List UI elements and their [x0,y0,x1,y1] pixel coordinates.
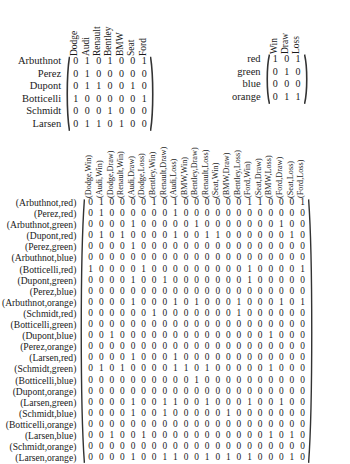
pair-product-cell: 0 [287,376,298,387]
pair-product-cell: 0 [181,453,192,464]
pair-product-cell: 0 [149,376,160,387]
pair-product-cell: 0 [191,364,202,375]
driver-car-row: 0101001 [70,56,150,69]
pair-product-cell: 0 [223,376,234,387]
pair-product-row-label: (Schmidt,green) [14,364,79,375]
pair-product-cell: 1 [85,265,96,276]
driver-car-cell: 1 [82,81,93,94]
pair-product-cell: 1 [265,364,276,375]
pair-product-cell: 0 [297,364,308,375]
color-result-row: 011 [270,92,304,105]
pair-product-cell: 0 [244,364,255,375]
color-result-col-label: Loss [292,24,303,54]
pair-product-cell: 0 [96,265,107,276]
driver-car-cell: 0 [104,81,115,94]
pair-product-row: 000000000010000000000 [85,376,307,387]
pair-product-cell: 1 [96,364,107,375]
pair-product-cell: 0 [128,376,139,387]
pair-product-cell: 0 [170,376,181,387]
pair-product-cell: 0 [181,376,192,387]
pair-product-cell: 1 [170,453,181,464]
left-paren [265,54,270,104]
driver-car-col-headers: DodgeAudiRenaultBentleyBMWSeatFord [65,12,155,56]
driver-car-grid: 0101001010000001100101000001000100001101… [70,56,150,132]
pair-product-cell: 0 [297,453,308,464]
driver-car-cell: 0 [116,56,127,69]
pair-product-cell: 0 [265,253,276,264]
pair-product-cell: 0 [276,265,287,276]
driver-car-col-label: Ford [139,12,150,56]
pair-product-col-headers: (Dodge,Win)(Audi,Win)(Dodge,Draw)(Renaul… [79,124,313,198]
pair-product-cell: 0 [276,453,287,464]
pair-product-cell: 1 [170,364,181,375]
pair-product-grid: 0100001010000001100010100000010000000000… [85,198,307,464]
pair-product-cell: 1 [160,453,171,464]
pair-product-cell: 0 [234,453,245,464]
pair-product-cell: 0 [160,253,171,264]
pair-product-cell: 0 [244,253,255,264]
right-paren [308,198,314,464]
pair-product-cell: 0 [160,376,171,387]
driver-car-col-label: Seat [127,12,138,56]
pair-product-cell: 0 [212,253,223,264]
pair-product-cell: 0 [212,453,223,464]
driver-car-cell: 1 [127,81,138,94]
pair-product-cell: 0 [255,364,266,375]
driver-car-cell: 0 [93,56,104,69]
pair-product-cell: 0 [265,453,276,464]
pair-product-cell: 0 [244,376,255,387]
color-result-row-labels: redgreenblueorange [232,54,265,104]
pair-product-cell: 0 [85,376,96,387]
pair-product-cell: 0 [191,265,202,276]
pair-product-cell: 0 [255,453,266,464]
pair-product-cell: 0 [181,265,192,276]
pair-product-cell: 0 [117,265,128,276]
pair-product-cell: 0 [212,265,223,276]
left-paren [79,198,85,464]
driver-car-row-label: Dupont [30,81,66,94]
color-result-cell: 0 [281,79,292,92]
pair-product-col-label: (Ford,Loss) [297,124,308,198]
pair-product-cell: 0 [96,453,107,464]
driver-car-col-label: Audi [82,12,93,56]
pair-product-cell: 0 [138,253,149,264]
color-result-matrix: redgreenblueorange WinDrawLoss 101010000… [232,24,309,104]
driver-car-cell: 0 [127,56,138,69]
driver-car-col-label: Dodge [70,12,81,56]
pair-product-cell: 0 [149,265,160,276]
pair-product-cell: 0 [276,253,287,264]
color-result-cell: 1 [270,54,281,67]
color-result-row-label: red [247,54,264,67]
driver-car-cell: 1 [82,56,93,69]
pair-product-cell: 0 [202,265,213,276]
pair-product-cell: 0 [265,376,276,387]
pair-product-row: 000010011001010100010 [85,453,307,464]
color-result-col-headers: WinDrawLoss [265,24,309,54]
pair-product-cell: 0 [287,253,298,264]
pair-product-cell: 1 [202,364,213,375]
pair-product-cell: 0 [223,364,234,375]
pair-product-row: 000000000000000000000 [85,253,307,264]
pair-product-cell: 1 [138,265,149,276]
color-result-cell: 0 [270,92,281,105]
driver-car-matrix: ArbuthnotPerezDupontBotticelliSchmidtLar… [18,12,155,132]
pair-product-cell: 0 [276,364,287,375]
driver-car-row-label: Arbuthnot [18,56,65,69]
color-result-row: 101 [270,54,304,67]
pair-product-cell: 0 [276,376,287,387]
pair-product-cell: 0 [160,364,171,375]
pair-product-cell: 1 [128,453,139,464]
pair-product-cell: 0 [149,364,160,375]
pair-product-cell: 0 [265,265,276,276]
pair-product-cell: 0 [107,376,118,387]
driver-car-row: 0110010 [70,81,150,94]
color-result-row-label: blue [243,79,265,92]
pair-product-cell: 0 [138,376,149,387]
pair-product-cell: 0 [234,265,245,276]
driver-car-cell: 1 [139,56,150,69]
color-result-row: 000 [270,79,304,92]
pair-product-row: 010100001101000001000 [85,364,307,375]
color-result-cell: 0 [292,79,303,92]
pair-product-cell: 0 [138,453,149,464]
pair-product-cell: 0 [255,253,266,264]
